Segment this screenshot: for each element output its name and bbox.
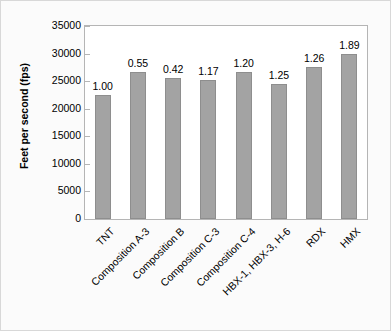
- x-axis-category-label: RDX: [303, 225, 327, 249]
- bar-group: 1.00: [85, 26, 120, 219]
- bar[interactable]: [130, 72, 146, 219]
- y-axis-tick-label: 30000: [35, 47, 81, 59]
- y-axis-title-text: Feet per second (fps): [18, 63, 30, 169]
- y-axis-tick-labels: 05000100001500020000250003000035000: [35, 19, 81, 221]
- bar[interactable]: [341, 54, 357, 219]
- bar-group: 1.17: [191, 26, 226, 219]
- bar[interactable]: [236, 72, 252, 219]
- bar-value-label: 1.20: [233, 57, 253, 69]
- x-axis-category-label: TNT: [93, 225, 116, 248]
- bar-group: 0.55: [120, 26, 155, 219]
- bar-group: 0.42: [156, 26, 191, 219]
- bar[interactable]: [95, 95, 111, 219]
- bar-value-label: 1.26: [304, 52, 324, 64]
- x-axis-category-labels: TNTComposition A-3Composition BCompositi…: [84, 221, 368, 329]
- x-axis-category-label: HMX: [338, 225, 363, 250]
- y-axis-tick-label: 20000: [35, 102, 81, 114]
- bar-value-label: 0.42: [163, 63, 183, 75]
- y-axis-tick-label: 10000: [35, 157, 81, 169]
- bar[interactable]: [165, 78, 181, 219]
- y-axis-tick-label: 35000: [35, 19, 81, 31]
- bar-chart-figure: Feet per second (fps) 050001000015000200…: [0, 0, 391, 331]
- bar-value-label: 1.00: [92, 80, 112, 92]
- bar-group: 1.25: [261, 26, 296, 219]
- plot-area: 1.000.550.421.171.201.251.261.89: [84, 25, 368, 220]
- bar-group: 1.89: [332, 26, 367, 219]
- y-axis-tick-label: 25000: [35, 74, 81, 86]
- bar-group: 1.20: [226, 26, 261, 219]
- bar[interactable]: [271, 84, 287, 219]
- bar-value-label: 0.55: [128, 57, 148, 69]
- x-axis-category-label: HBX-1, HBX-3, H-6: [220, 225, 292, 297]
- bar[interactable]: [200, 80, 216, 220]
- y-axis-title: Feet per second (fps): [11, 1, 37, 231]
- y-axis-tick-label: 15000: [35, 129, 81, 141]
- y-axis-tick-label: 5000: [35, 184, 81, 196]
- bar-value-label: 1.17: [198, 65, 218, 77]
- bar-group: 1.26: [297, 26, 332, 219]
- plot-inner: 1.000.550.421.171.201.251.261.89: [85, 26, 367, 219]
- bar-value-label: 1.25: [269, 69, 289, 81]
- bar[interactable]: [306, 67, 322, 219]
- y-axis-tick-label: 0: [35, 212, 81, 224]
- bar-value-label: 1.89: [339, 39, 359, 51]
